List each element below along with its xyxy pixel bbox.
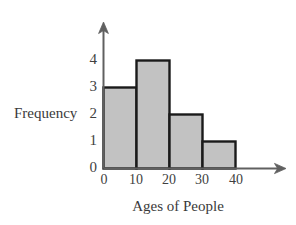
histogram-bar-0-10	[104, 88, 137, 169]
y-tick-label-4: 4	[81, 52, 97, 67]
x-tick-label-20: 20	[157, 173, 181, 187]
histogram-bar-10-20	[137, 61, 170, 169]
bar-series	[104, 61, 236, 169]
y-tick-label-3: 3	[81, 79, 97, 94]
y-tick-label-1: 1	[81, 133, 97, 148]
x-tick-label-30: 30	[190, 173, 214, 187]
x-axis-title: Ages of People	[98, 199, 258, 214]
y-axis-title: Frequency	[14, 106, 77, 121]
histogram-figure: 4 3 2 1 0 0 10 20 30 40 Frequency Ages o…	[0, 0, 296, 225]
histogram-bar-30-40	[203, 142, 236, 169]
histogram-bar-20-30	[170, 115, 203, 169]
y-tick-label-2: 2	[81, 106, 97, 121]
x-tick-label-0: 0	[92, 173, 116, 187]
x-tick-label-40: 40	[224, 173, 248, 187]
x-tick-label-10: 10	[124, 173, 148, 187]
